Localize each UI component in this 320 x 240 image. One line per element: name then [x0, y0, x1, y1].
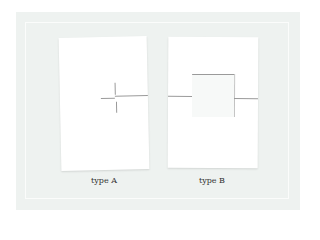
cut-left-slit — [168, 96, 192, 97]
cut-vertical-top — [115, 83, 116, 95]
paper-type-b — [168, 37, 259, 168]
flap — [192, 75, 234, 117]
paper-type-a — [59, 36, 150, 171]
label-type-b: type B — [182, 176, 242, 185]
cut-right-slit — [234, 98, 258, 99]
label-type-a: type A — [74, 176, 134, 185]
cut-horizontal-left — [101, 98, 115, 99]
cut-horizontal-right — [115, 95, 148, 97]
cut-vertical-bottom — [116, 102, 117, 113]
